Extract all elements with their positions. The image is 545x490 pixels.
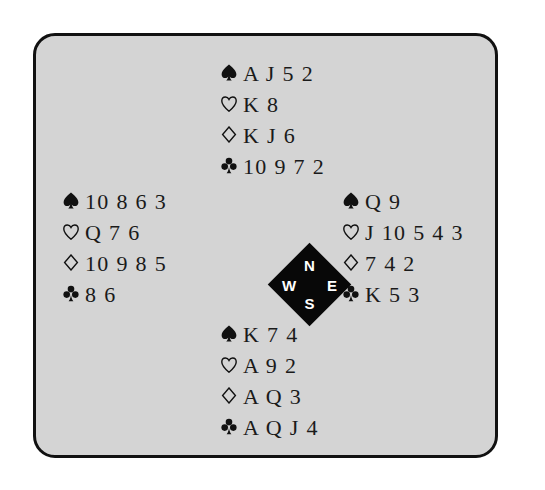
heart-icon	[221, 96, 243, 112]
hand-east-clubs-cards: K 5 3	[365, 284, 421, 306]
hand-south-diamonds-cards: A Q 3	[243, 386, 302, 408]
spade-icon	[343, 192, 365, 209]
spade-icon	[63, 192, 85, 209]
compass-label-east: E	[327, 277, 337, 292]
hand-north-clubs-cards: 10 9 7 2	[243, 156, 325, 178]
compass-label-south: S	[304, 296, 314, 311]
hand-east-clubs-row: K 5 3	[343, 279, 464, 310]
hand-west-hearts-row: Q 7 6	[63, 217, 167, 248]
heart-icon	[221, 357, 243, 373]
hand-east: Q 9 J 10 5 4 3 7 4 2	[343, 186, 464, 310]
spade-icon	[221, 325, 243, 342]
hand-east-spades-cards: Q 9	[365, 191, 401, 213]
spade-icon	[221, 64, 243, 81]
hand-west-clubs-cards: 8 6	[85, 284, 116, 306]
hand-east-hearts-row: J 10 5 4 3	[343, 217, 464, 248]
hand-north-hearts-cards: K 8	[243, 94, 279, 116]
hand-north-spades-cards: A J 5 2	[243, 63, 314, 85]
diamond-icon	[221, 126, 243, 143]
diamond-icon	[221, 387, 243, 404]
compass-label-west: W	[282, 277, 296, 292]
hand-south-clubs-row: A Q J 4	[221, 412, 319, 443]
hand-south-clubs-cards: A Q J 4	[243, 417, 319, 439]
bridge-deal-panel: A J 5 2 K 8 K J 6	[33, 33, 498, 458]
hand-north-diamonds-cards: K J 6	[243, 125, 296, 147]
hand-south-hearts-cards: A 9 2	[243, 355, 297, 377]
hand-north: A J 5 2 K 8 K J 6	[221, 58, 325, 182]
hand-south-spades-cards: K 7 4	[243, 324, 299, 346]
hand-north-hearts-row: K 8	[221, 89, 325, 120]
hand-south-diamonds-row: A Q 3	[221, 381, 319, 412]
hand-east-hearts-cards: J 10 5 4 3	[365, 222, 464, 244]
hand-south-hearts-row: A 9 2	[221, 350, 319, 381]
club-icon	[63, 285, 85, 302]
diamond-icon	[63, 254, 85, 271]
hand-west-clubs-row: 8 6	[63, 279, 167, 310]
compass-label-north: N	[304, 258, 315, 273]
hand-west-spades-cards: 10 8 6 3	[85, 191, 167, 213]
compass-diamond-shape	[268, 243, 351, 326]
hand-north-clubs-row: 10 9 7 2	[221, 151, 325, 182]
hand-east-diamonds-row: 7 4 2	[343, 248, 464, 279]
hand-west: 10 8 6 3 Q 7 6 10 9 8 5	[63, 186, 167, 310]
club-icon	[221, 157, 243, 174]
hand-west-diamonds-row: 10 9 8 5	[63, 248, 167, 279]
heart-icon	[63, 224, 85, 240]
hand-north-spades-row: A J 5 2	[221, 58, 325, 89]
heart-icon	[343, 224, 365, 240]
hand-east-spades-row: Q 9	[343, 186, 464, 217]
hand-west-spades-row: 10 8 6 3	[63, 186, 167, 217]
hand-south: K 7 4 A 9 2 A Q 3	[221, 319, 319, 443]
hand-west-diamonds-cards: 10 9 8 5	[85, 253, 167, 275]
hand-west-hearts-cards: Q 7 6	[85, 222, 141, 244]
hand-east-diamonds-cards: 7 4 2	[365, 253, 416, 275]
club-icon	[221, 418, 243, 435]
compass-rose: N W E S	[268, 243, 351, 326]
hand-north-diamonds-row: K J 6	[221, 120, 325, 151]
